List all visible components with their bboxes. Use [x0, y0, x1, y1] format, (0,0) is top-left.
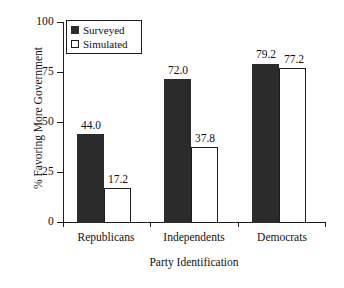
bar-value-independents-simulated: 37.8	[185, 132, 225, 144]
x-tick-0	[63, 222, 64, 227]
x-category-label-republicans: Republicans	[56, 231, 156, 244]
y-axis-title: % Favoring More Government	[32, 18, 44, 218]
bar-chart: 100 75 50 25 0 % Favoring More Governmen…	[0, 0, 344, 288]
legend-swatch-outline-icon	[71, 40, 79, 48]
x-tick-2	[238, 222, 239, 227]
bar-independents-surveyed	[164, 79, 191, 223]
y-tick-25	[57, 172, 63, 173]
bar-republicans-simulated	[104, 188, 131, 223]
y-tick-50	[57, 122, 63, 123]
legend-label-surveyed: Surveyed	[83, 25, 125, 36]
legend-item-simulated: Simulated	[71, 37, 141, 51]
legend-label-simulated: Simulated	[83, 39, 128, 50]
bar-value-republicans-surveyed: 44.0	[71, 119, 111, 131]
bar-independents-simulated	[191, 147, 218, 223]
bar-democrats-simulated	[279, 68, 306, 223]
bar-value-democrats-simulated: 77.2	[274, 53, 314, 65]
y-tick-75	[57, 72, 63, 73]
y-tick-100	[57, 22, 63, 23]
legend-item-surveyed: Surveyed	[71, 23, 141, 37]
y-axis-line	[63, 22, 64, 222]
legend-swatch-filled-icon	[71, 26, 79, 34]
x-category-label-democrats: Democrats	[232, 231, 332, 244]
legend: Surveyed Simulated	[66, 20, 142, 54]
bar-value-republicans-simulated: 17.2	[98, 173, 138, 185]
x-tick-3	[325, 222, 326, 227]
bar-democrats-surveyed	[252, 64, 279, 223]
x-category-label-independents: Independents	[144, 231, 244, 244]
bar-value-independents-surveyed: 72.0	[158, 64, 198, 76]
x-tick-1	[150, 222, 151, 227]
x-axis-title: Party Identification	[63, 256, 325, 268]
